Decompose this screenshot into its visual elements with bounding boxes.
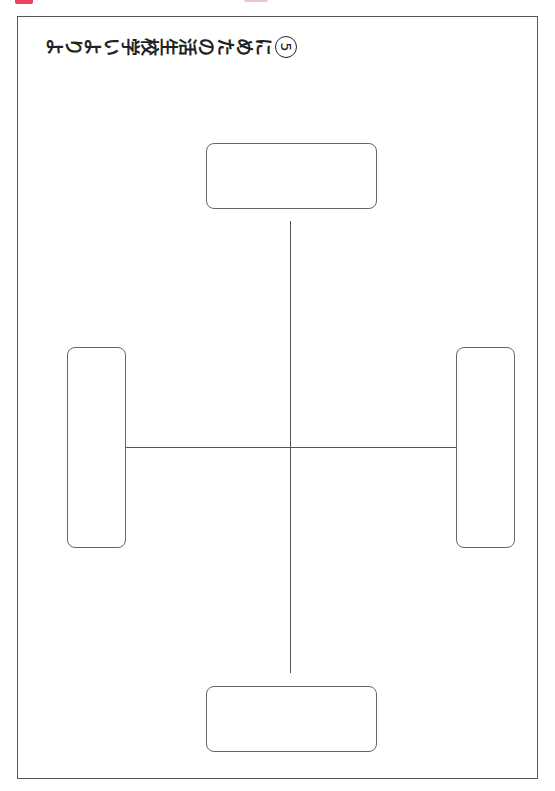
box-bottom[interactable]: [206, 686, 377, 752]
box-left[interactable]: [67, 347, 126, 548]
title-char: 生: [159, 38, 177, 56]
title-char: 学: [121, 38, 139, 56]
title-char: 校: [140, 38, 158, 56]
title-char: よ: [83, 38, 101, 56]
corner-tab-marker: [15, 0, 33, 4]
title-char: の: [197, 38, 215, 56]
title-char: い: [102, 38, 120, 56]
horizontal-axis-line: [126, 447, 456, 448]
title-char: に: [254, 38, 272, 56]
top-decor-marker: [244, 0, 268, 2]
title-char: 活: [178, 38, 196, 56]
title-char: よ: [45, 38, 63, 56]
page-title: よ り よ い 学 校 生 活 の た め に 5: [45, 30, 297, 64]
title-char: り: [64, 38, 82, 56]
box-top[interactable]: [206, 143, 377, 209]
title-char: め: [235, 38, 253, 56]
title-char: た: [216, 38, 234, 56]
box-right[interactable]: [456, 347, 515, 548]
title-circled-number: 5: [275, 36, 297, 58]
